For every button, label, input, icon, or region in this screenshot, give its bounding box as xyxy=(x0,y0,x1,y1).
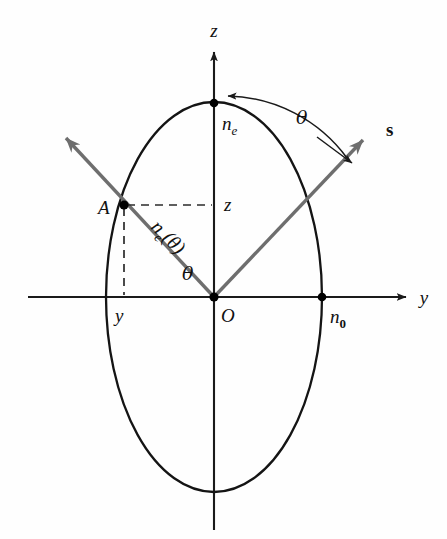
n0-vertex-subscript: 0 xyxy=(340,316,347,331)
figure-canvas: z y O ne n0 A s z y θ θ ne(θ) xyxy=(0,0,447,539)
n0-vertex-base: n xyxy=(330,306,340,327)
ne-vertex-subscript: e xyxy=(232,123,238,138)
z-component-label: z xyxy=(223,194,232,215)
index-ellipsoid-diagram: z y O ne n0 A s z y θ θ ne(θ) xyxy=(0,0,447,539)
vertex-dot-a xyxy=(119,200,128,209)
n0-vertex-label: n0 xyxy=(330,306,346,331)
vertex-dot-ne xyxy=(210,99,219,108)
ne-vertex-label: ne xyxy=(222,113,238,138)
s-vector-label: s xyxy=(386,119,393,140)
point-a-label: A xyxy=(96,197,110,218)
theta-arc-upper xyxy=(228,96,347,158)
poynting-vector-s-ray xyxy=(214,140,363,297)
y-axis-label: y xyxy=(418,287,429,308)
z-axis-label: z xyxy=(209,20,218,41)
theta-lower-label: θ xyxy=(182,262,194,284)
theta-arc-lower-tick xyxy=(317,137,352,163)
vertex-dot-origin xyxy=(209,292,218,301)
theta-upper-label: θ xyxy=(296,106,308,128)
ne-vertex-base: n xyxy=(222,113,232,134)
y-component-label: y xyxy=(113,305,124,326)
ne-theta-group: ne(θ) xyxy=(144,215,190,261)
ne-theta-label: ne(θ) xyxy=(144,215,190,261)
vertex-dot-n0 xyxy=(318,293,327,302)
origin-label: O xyxy=(221,305,235,326)
